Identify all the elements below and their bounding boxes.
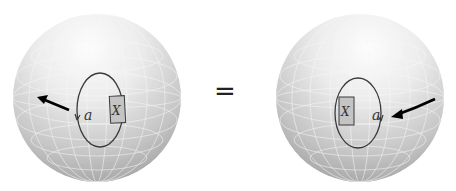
right-sphere: X a <box>276 14 444 182</box>
left-sphere: X a <box>13 14 181 182</box>
equals-sign: = <box>214 78 236 104</box>
loop-a-label: a <box>84 107 92 123</box>
diagram-figure: X a <box>0 0 456 191</box>
box-x-label: X <box>111 104 121 118</box>
loop-a-label: a <box>372 107 380 123</box>
box-x-label: X <box>340 105 350 119</box>
